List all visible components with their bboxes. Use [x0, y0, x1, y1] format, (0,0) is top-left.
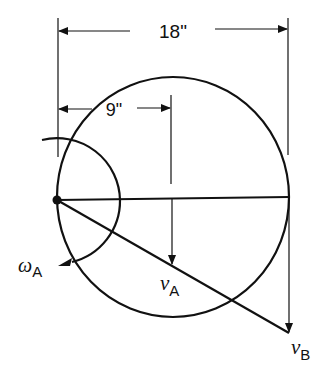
vA-label: vA: [160, 271, 179, 299]
vB-label: vB: [291, 335, 310, 363]
velocity-profile-line: [57, 200, 289, 333]
omega-arrowhead-icon: [58, 258, 72, 266]
dim-9-label: 9": [106, 100, 122, 120]
pivot-point: [53, 196, 62, 205]
diameter-line: [57, 197, 289, 200]
wheel-diagram: 18" 9" ωA vA vB: [0, 0, 319, 369]
omega-label: ωA: [18, 254, 42, 280]
dim-18-label: 18": [159, 21, 187, 42]
